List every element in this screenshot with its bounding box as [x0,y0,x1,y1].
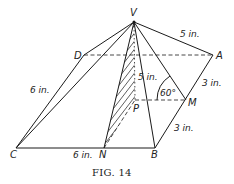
measure-cn: 6 in. [73,150,93,160]
apex-point [133,21,136,24]
hatched-triangle-vnp [100,18,140,150]
measure-mb: 3 in. [174,123,194,133]
pyramid-figure: V A D C N B M P 5 in. 6 in. 6 in. 3 in. … [0,0,234,184]
segment-np [104,100,135,148]
figure-caption: FIG. 14 [92,167,132,178]
label-p: P [133,103,140,114]
measure-vp: 5 in. [138,72,158,82]
label-m: M [188,97,197,108]
label-d: D [74,50,82,61]
label-c: C [10,149,17,160]
label-v: V [130,7,138,18]
measure-va: 5 in. [180,29,200,39]
measure-am: 3 in. [202,78,222,88]
edge-vb [134,22,155,148]
label-b: B [151,149,158,160]
edge-va [134,22,213,55]
measure-angle: 60° [160,88,176,98]
edge-ba [155,55,213,148]
slant-vn [104,22,134,148]
edge-vd [84,22,134,55]
label-n: N [99,149,107,160]
edge-dc [16,55,84,148]
measure-cd: 6 in. [30,85,50,95]
label-a: A [215,50,223,61]
